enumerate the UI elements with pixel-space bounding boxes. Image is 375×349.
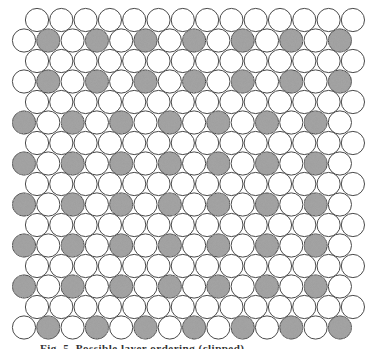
white-circle [37,152,60,175]
white-circle [183,275,206,298]
white-circle [293,49,316,72]
white-circle [25,131,48,154]
white-circle [231,234,254,257]
white-circle [328,275,351,298]
white-circle [74,295,97,318]
shaded-circle [85,29,108,52]
white-circle [268,8,291,31]
white-circle [207,29,230,52]
white-circle [74,254,97,277]
white-circle [50,172,73,195]
shaded-circle [280,29,303,52]
white-circle [183,193,206,216]
white-circle [61,316,84,339]
white-circle [196,90,219,113]
white-circle [134,152,157,175]
white-circle [207,316,230,339]
white-circle [220,213,243,236]
white-circle [231,275,254,298]
white-circle [328,152,351,175]
white-circle [158,70,181,93]
white-circle [196,131,219,154]
shaded-circle [231,70,254,93]
shaded-circle [134,316,157,339]
shaded-circle [231,29,254,52]
white-circle [74,90,97,113]
white-circle [341,90,364,113]
white-circle [50,254,73,277]
white-circle [147,254,170,277]
white-circle [25,295,48,318]
shaded-circle [61,111,84,134]
shaded-circle [183,29,206,52]
shaded-circle [207,234,230,257]
white-circle [341,213,364,236]
white-circle [171,90,194,113]
white-circle [196,254,219,277]
white-circle [74,131,97,154]
shaded-circle [12,152,35,175]
white-circle [255,29,278,52]
white-circle [98,295,121,318]
shaded-circle [158,275,181,298]
white-circle [317,49,340,72]
white-circle [196,172,219,195]
white-circle [317,254,340,277]
white-circle [147,49,170,72]
white-circle [37,111,60,134]
shaded-circle [12,234,35,257]
shaded-circle [110,234,133,257]
white-circle [12,70,35,93]
white-circle [123,131,146,154]
white-circle [244,213,267,236]
white-circle [50,90,73,113]
white-circle [50,131,73,154]
shaded-circle [328,29,351,52]
white-circle [317,213,340,236]
shaded-circle [231,316,254,339]
white-circle [207,70,230,93]
white-circle [183,152,206,175]
shaded-circle [158,111,181,134]
white-circle [280,275,303,298]
white-circle [328,234,351,257]
white-circle [50,213,73,236]
white-circle [196,295,219,318]
white-circle [255,70,278,93]
white-circle [231,193,254,216]
shaded-circle [255,152,278,175]
white-circle [231,111,254,134]
white-circle [341,8,364,31]
white-circle [171,213,194,236]
white-circle [268,172,291,195]
shaded-circle [110,152,133,175]
white-circle [74,8,97,31]
white-circle [98,49,121,72]
white-circle [12,29,35,52]
circle-lattice [12,8,364,339]
white-circle [280,234,303,257]
shaded-circle [328,70,351,93]
white-circle [37,275,60,298]
white-circle [220,131,243,154]
shaded-circle [61,152,84,175]
white-circle [317,131,340,154]
white-circle [74,213,97,236]
shaded-circle [280,316,303,339]
shaded-circle [61,234,84,257]
white-circle [98,131,121,154]
shaded-circle [207,275,230,298]
white-circle [98,90,121,113]
shaded-circle [183,316,206,339]
white-circle [123,254,146,277]
white-circle [183,234,206,257]
shaded-circle [134,29,157,52]
white-circle [12,316,35,339]
white-circle [171,8,194,31]
shaded-circle [304,234,327,257]
white-circle [171,49,194,72]
shaded-circle [37,29,60,52]
white-circle [74,172,97,195]
white-circle [196,8,219,31]
white-circle [61,29,84,52]
